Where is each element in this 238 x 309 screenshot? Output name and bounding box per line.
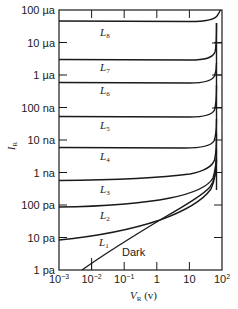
x-ticks — [92, 10, 190, 270]
x-tick-1e-3: 10−3 — [49, 273, 69, 285]
y-axis-title: IR — [5, 142, 19, 152]
y-tick-100pa: 100 pa — [21, 199, 56, 211]
label-L6: L6 — [99, 84, 110, 98]
y-tick-10pa: 10 pa — [27, 232, 55, 244]
label-L2: L2 — [99, 209, 110, 223]
curve-L6 — [59, 63, 217, 83]
label-L4: L4 — [99, 150, 110, 164]
x-tick-10: 10 — [183, 273, 195, 285]
y-tick-labels: 100 µa 10 µa 1 µa 100 na 10 na 1 na 100 … — [21, 4, 56, 276]
y-tick-100ua: 100 µa — [21, 4, 56, 16]
curve-L5 — [59, 85, 217, 117]
curves — [59, 10, 221, 270]
curve-labels: L8 L7 L6 L5 L4 L3 L2 L1 Dark — [98, 26, 146, 258]
y-tick-1na: 1 na — [34, 167, 56, 179]
y-tick-10ua: 10 µa — [27, 37, 56, 49]
x-axis-title: VR (v) — [130, 289, 157, 303]
label-L1: L1 — [98, 236, 109, 250]
photodiode-iv-chart: 100 µa 10 µa 1 µa 100 na 10 na 1 na 100 … — [0, 0, 238, 309]
curve-L8 — [59, 10, 221, 22]
x-tick-1e2: 102 — [214, 273, 230, 285]
curve-L7 — [59, 23, 217, 60]
label-L3: L3 — [99, 183, 110, 197]
x-tick-1: 1 — [154, 273, 160, 285]
x-tick-labels: 10−3 10−2 10−1 1 10 102 — [49, 273, 230, 285]
y-tick-100na: 100 na — [21, 102, 56, 114]
y-tick-10na: 10 na — [27, 134, 55, 146]
curve-L1 — [59, 158, 217, 240]
curve-L4 — [59, 119, 217, 148]
label-L8: L8 — [99, 26, 110, 40]
y-ticks — [59, 43, 222, 238]
plot-frame — [59, 10, 222, 270]
curve-L3 — [59, 134, 217, 181]
label-dark: Dark — [122, 246, 146, 258]
y-tick-1ua: 1 µa — [33, 69, 56, 81]
x-tick-1e-2: 10−2 — [81, 273, 101, 285]
label-L7: L7 — [99, 61, 110, 75]
x-tick-1e-1: 10−1 — [114, 273, 134, 285]
label-L5: L5 — [99, 119, 110, 133]
